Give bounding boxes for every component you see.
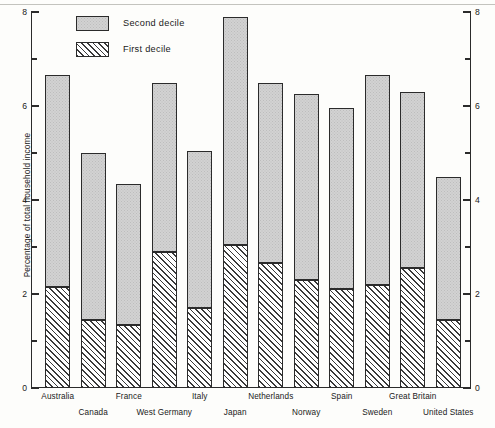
bar-segment-second-decile bbox=[223, 17, 248, 245]
bar-segment-second-decile bbox=[365, 75, 390, 284]
bar-segment-first-decile bbox=[436, 320, 461, 388]
bar-segment-second-decile bbox=[152, 83, 177, 252]
bar-group bbox=[294, 94, 319, 388]
y-tick-label-right-6: 6 bbox=[475, 102, 480, 111]
legend-swatch-first-decile bbox=[76, 42, 109, 57]
legend: Second decile First decile bbox=[76, 14, 185, 66]
bar-segment-second-decile bbox=[258, 83, 283, 264]
legend-label-second-decile: Second decile bbox=[123, 18, 185, 28]
bar-segment-second-decile bbox=[45, 75, 70, 287]
bar-segment-second-decile bbox=[116, 184, 141, 325]
bar-segment-second-decile bbox=[436, 177, 461, 320]
y-tick-label-left-2: 2 bbox=[22, 290, 27, 299]
bar-segment-second-decile bbox=[294, 94, 319, 280]
x-axis-label-france: France bbox=[116, 392, 142, 401]
x-axis-label-netherlands: Netherlands bbox=[248, 392, 293, 401]
bar-segment-second-decile bbox=[400, 92, 425, 268]
y-tick-label-left-6: 6 bbox=[22, 102, 27, 111]
x-axis-label-sweden: Sweden bbox=[362, 408, 392, 417]
x-axis-label-united-states: United States bbox=[423, 408, 473, 417]
bar-segment-first-decile bbox=[45, 287, 70, 388]
bar-group bbox=[329, 108, 354, 388]
legend-label-first-decile: First decile bbox=[123, 44, 171, 54]
chart-container: Percentage of total household income 002… bbox=[0, 0, 495, 428]
page-top-rule bbox=[0, 4, 495, 5]
y-tick-label-left-4: 4 bbox=[22, 196, 27, 205]
bar-group bbox=[400, 92, 425, 388]
bar-segment-first-decile bbox=[329, 289, 354, 388]
bar-segment-second-decile bbox=[187, 151, 212, 308]
plot-area: 0022446688 bbox=[31, 12, 471, 388]
bar-group bbox=[152, 83, 177, 389]
bar-group bbox=[116, 184, 141, 388]
bar-segment-first-decile bbox=[400, 268, 425, 388]
bar-group bbox=[436, 177, 461, 389]
x-axis-label-spain: Spain bbox=[331, 392, 352, 401]
bars-layer bbox=[31, 12, 471, 388]
bar-segment-first-decile bbox=[81, 320, 106, 388]
y-tick-label-right-8: 8 bbox=[475, 8, 480, 17]
bar-segment-second-decile bbox=[81, 153, 106, 320]
x-axis-label-italy: Italy bbox=[192, 392, 208, 401]
y-tick-label-right-4: 4 bbox=[475, 196, 480, 205]
x-axis-label-norway: Norway bbox=[292, 408, 320, 417]
x-axis-label-australia: Australia bbox=[41, 392, 74, 401]
bar-group bbox=[365, 75, 390, 388]
legend-swatch-second-decile bbox=[76, 16, 109, 31]
bar-segment-first-decile bbox=[258, 263, 283, 388]
legend-item-second-decile: Second decile bbox=[76, 14, 185, 32]
bar-segment-first-decile bbox=[116, 325, 141, 388]
y-tick-label-right-0: 0 bbox=[475, 384, 480, 393]
bar-group bbox=[258, 83, 283, 389]
x-axis-label-canada: Canada bbox=[79, 408, 108, 417]
x-axis-label-great-britain: Great Britain bbox=[389, 392, 436, 401]
bar-segment-first-decile bbox=[294, 280, 319, 388]
bar-group bbox=[187, 151, 212, 388]
bar-segment-first-decile bbox=[152, 252, 177, 388]
bar-segment-first-decile bbox=[365, 285, 390, 388]
legend-item-first-decile: First decile bbox=[76, 40, 185, 58]
y-tick-label-left-8: 8 bbox=[22, 8, 27, 17]
bar-segment-first-decile bbox=[223, 245, 248, 388]
y-tick-label-right-2: 2 bbox=[475, 290, 480, 299]
x-axis-label-japan: Japan bbox=[224, 408, 247, 417]
bar-segment-first-decile bbox=[187, 308, 212, 388]
bar-group bbox=[45, 75, 70, 388]
x-axis-category-labels: AustraliaCanadaFranceWest GermanyItalyJa… bbox=[31, 390, 471, 428]
bar-group bbox=[223, 17, 248, 388]
bar-segment-second-decile bbox=[329, 108, 354, 289]
y-tick-label-left-0: 0 bbox=[22, 384, 27, 393]
bar-group bbox=[81, 153, 106, 388]
x-axis-label-west-germany: West Germany bbox=[136, 408, 192, 417]
